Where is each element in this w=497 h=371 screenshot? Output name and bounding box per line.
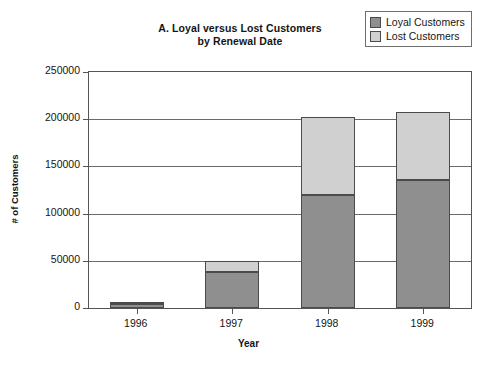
bar-segment-lost-customers-1998 [301, 117, 355, 194]
x-tick-mark [328, 308, 329, 314]
chart-figure: A. Loyal versus Lost Customers by Renewa… [0, 0, 497, 371]
y-tick-mark [83, 72, 89, 73]
y-tick-mark [83, 214, 89, 215]
bar-segment-loyal-customers-1996 [110, 304, 164, 308]
x-tick-label: 1997 [196, 317, 266, 329]
bar-segment-loyal-customers-1999 [396, 180, 450, 308]
bar-segment-lost-customers-1997 [205, 261, 259, 272]
y-tick-mark [83, 261, 89, 262]
bar-column-1997 [205, 72, 259, 308]
bar-column-1996 [110, 72, 164, 308]
y-tick-mark [83, 119, 89, 120]
x-tick-mark [423, 308, 424, 314]
y-tick-mark [83, 166, 89, 167]
plot-area [88, 71, 472, 309]
bar-segment-loyal-customers-1998 [301, 195, 355, 308]
x-tick-mark [232, 308, 233, 314]
x-tick-label: 1999 [387, 317, 457, 329]
y-tick-mark [83, 308, 89, 309]
bar-segment-lost-customers-1996 [110, 302, 164, 304]
bar-segment-loyal-customers-1997 [205, 272, 259, 308]
bar-segment-lost-customers-1999 [396, 112, 450, 180]
bar-column-1999 [396, 72, 450, 308]
x-tick-mark [137, 308, 138, 314]
x-tick-label: 1996 [101, 317, 171, 329]
x-tick-label: 1998 [292, 317, 362, 329]
bar-column-1998 [301, 72, 355, 308]
